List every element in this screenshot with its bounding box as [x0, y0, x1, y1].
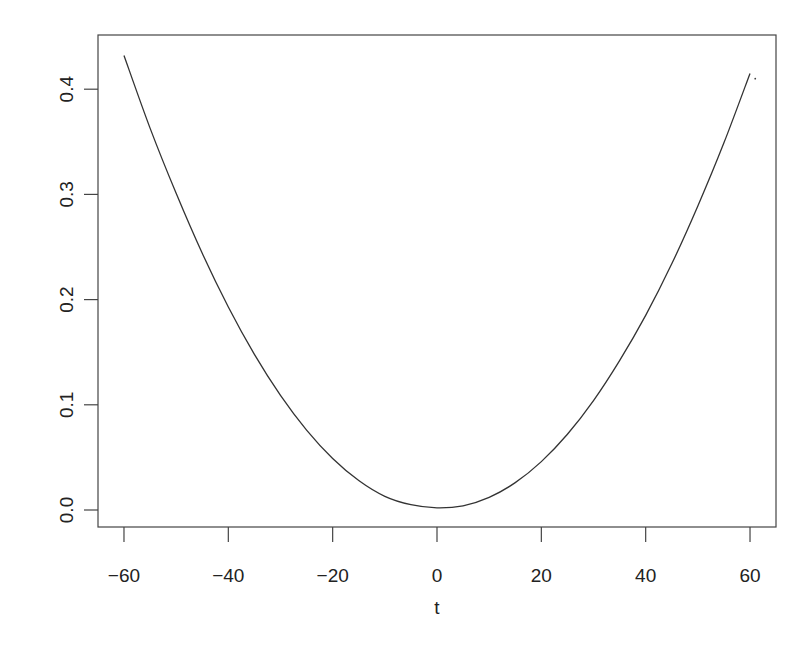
- y-tick-label: 0.1: [56, 392, 77, 418]
- x-tick-label: −60: [108, 565, 140, 586]
- x-tick-label: 40: [635, 565, 656, 586]
- y-axis: 0.00.10.20.30.4: [56, 76, 98, 524]
- y-tick-label: 0.2: [56, 286, 77, 312]
- stray-dot: [754, 78, 756, 80]
- x-tick-label: 60: [739, 565, 760, 586]
- annotations: [754, 78, 756, 80]
- plot-frame: [98, 35, 776, 527]
- chart: −60−40−200204060 0.00.10.20.30.4 t: [0, 0, 812, 666]
- data-line: [124, 56, 750, 508]
- x-tick-label: 20: [531, 565, 552, 586]
- x-axis-label: t: [434, 597, 440, 618]
- y-tick-label: 0.4: [56, 76, 77, 103]
- y-tick-label: 0.0: [56, 497, 77, 523]
- y-tick-label: 0.3: [56, 181, 77, 207]
- x-tick-label: −40: [212, 565, 244, 586]
- x-axis: −60−40−200204060: [108, 527, 761, 586]
- x-tick-label: 0: [432, 565, 443, 586]
- x-tick-label: −20: [317, 565, 349, 586]
